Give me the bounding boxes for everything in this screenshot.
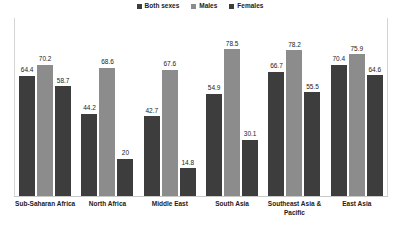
bar-rect bbox=[331, 65, 347, 196]
bar-chart: Both sexes Males Females 64.4 70.2 58.7 bbox=[0, 0, 400, 235]
legend-label: Females bbox=[237, 3, 263, 10]
chart-legend: Both sexes Males Females bbox=[0, 3, 400, 10]
x-axis-labels: Sub-Saharan Africa North Africa Middle E… bbox=[14, 200, 388, 218]
bar-value-label: 78.5 bbox=[226, 41, 239, 48]
bar-both-sexes[interactable]: 44.2 bbox=[81, 18, 97, 196]
bar-both-sexes[interactable]: 42.7 bbox=[144, 18, 160, 196]
bar-value-label: 75.9 bbox=[350, 46, 363, 53]
bar-value-label: 44.2 bbox=[83, 105, 96, 112]
bar-both-sexes[interactable]: 54.9 bbox=[206, 18, 222, 196]
x-axis-label: Southeast Asia & Pacific bbox=[263, 200, 325, 218]
bar-males[interactable]: 70.2 bbox=[37, 18, 53, 196]
bar-value-label: 64.6 bbox=[368, 67, 381, 74]
bar-females[interactable]: 58.7 bbox=[55, 18, 71, 196]
bar-group: 64.4 70.2 58.7 bbox=[14, 18, 76, 196]
bar-males[interactable]: 68.6 bbox=[99, 18, 115, 196]
bar-rect bbox=[349, 54, 365, 196]
bar-males[interactable]: 67.6 bbox=[162, 18, 178, 196]
bar-rect bbox=[268, 72, 284, 197]
bar-value-label: 55.5 bbox=[306, 84, 319, 91]
bar-rect bbox=[19, 76, 35, 196]
bar-value-label: 70.4 bbox=[332, 56, 345, 63]
bar-females[interactable]: 55.5 bbox=[304, 18, 320, 196]
bar-value-label: 67.6 bbox=[163, 61, 176, 68]
bar-group: 54.9 78.5 30.1 bbox=[201, 18, 263, 196]
bar-rect bbox=[242, 140, 258, 196]
bar-females[interactable]: 64.6 bbox=[367, 18, 383, 196]
bar-rect bbox=[224, 49, 240, 196]
bar-value-label: 14.8 bbox=[181, 160, 194, 167]
x-axis-label: North Africa bbox=[76, 200, 138, 209]
bar-value-label: 78.2 bbox=[288, 42, 301, 49]
bar-value-label: 58.7 bbox=[57, 78, 70, 85]
x-axis-label: Sub-Saharan Africa bbox=[14, 200, 76, 209]
bar-value-label: 42.7 bbox=[145, 108, 158, 115]
bar-rect bbox=[206, 94, 222, 196]
bar-rect bbox=[55, 86, 71, 196]
legend-item-males: Males bbox=[191, 3, 217, 10]
bar-males[interactable]: 78.5 bbox=[224, 18, 240, 196]
bar-rect bbox=[144, 116, 160, 196]
axis-baseline bbox=[14, 196, 388, 197]
bar-rect bbox=[162, 70, 178, 196]
bar-females[interactable]: 20 bbox=[117, 18, 133, 196]
legend-label: Both sexes bbox=[145, 3, 180, 10]
bar-value-label: 64.4 bbox=[21, 67, 34, 74]
legend-swatch-icon bbox=[191, 4, 196, 9]
bar-group: 70.4 75.9 64.6 bbox=[326, 18, 388, 196]
bar-rect bbox=[99, 68, 115, 196]
bar-group: 42.7 67.6 14.8 bbox=[139, 18, 201, 196]
bar-group: 44.2 68.6 20 bbox=[76, 18, 138, 196]
bar-group: 66.7 78.2 55.5 bbox=[263, 18, 325, 196]
bar-value-label: 70.2 bbox=[39, 56, 52, 63]
bar-rect bbox=[117, 159, 133, 196]
bar-females[interactable]: 14.8 bbox=[180, 18, 196, 196]
bar-females[interactable]: 30.1 bbox=[242, 18, 258, 196]
legend-label: Males bbox=[199, 3, 217, 10]
bar-rect bbox=[81, 114, 97, 197]
x-axis-label: Middle East bbox=[139, 200, 201, 209]
bar-value-label: 20 bbox=[122, 150, 129, 157]
legend-swatch-icon bbox=[229, 4, 234, 9]
legend-item-both-sexes: Both sexes bbox=[137, 3, 180, 10]
bar-groups: 64.4 70.2 58.7 44.2 68.6 20 bbox=[14, 18, 388, 196]
legend-swatch-icon bbox=[137, 4, 142, 9]
bar-rect bbox=[304, 92, 320, 196]
x-axis-label: East Asia bbox=[326, 200, 388, 209]
bar-rect bbox=[286, 50, 302, 196]
bar-males[interactable]: 78.2 bbox=[286, 18, 302, 196]
bar-value-label: 54.9 bbox=[208, 85, 221, 92]
bar-value-label: 68.6 bbox=[101, 59, 114, 66]
bar-males[interactable]: 75.9 bbox=[349, 18, 365, 196]
bar-both-sexes[interactable]: 70.4 bbox=[331, 18, 347, 196]
bar-both-sexes[interactable]: 64.4 bbox=[19, 18, 35, 196]
bar-rect bbox=[180, 168, 196, 196]
bar-both-sexes[interactable]: 66.7 bbox=[268, 18, 284, 196]
bar-value-label: 30.1 bbox=[244, 131, 257, 138]
legend-item-females: Females bbox=[229, 3, 263, 10]
bar-rect bbox=[367, 75, 383, 196]
bar-rect bbox=[37, 65, 53, 196]
bar-value-label: 66.7 bbox=[270, 63, 283, 70]
x-axis-label: South Asia bbox=[201, 200, 263, 209]
